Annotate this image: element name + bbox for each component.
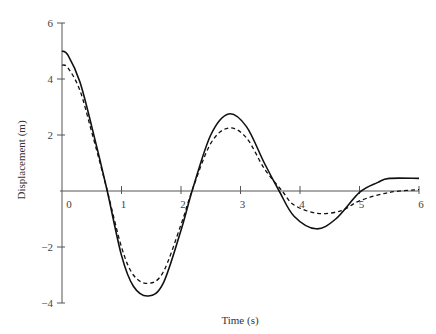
ticks: 642−2−40123456 [41, 17, 424, 309]
dashed-series-line [62, 65, 419, 283]
x-axis-title: Time (s) [221, 314, 259, 327]
solid-series-line [62, 51, 419, 296]
x-tick-label: 3 [240, 198, 246, 210]
axes [60, 23, 419, 303]
series [62, 51, 419, 296]
y-tick-label: 4 [48, 73, 54, 85]
x-tick-label: 0 [66, 198, 72, 210]
y-tick-label: 6 [48, 17, 54, 29]
x-tick-label: 1 [121, 198, 127, 210]
y-axis-title: Displacement (m) [15, 120, 28, 199]
y-tick-label: −2 [41, 241, 53, 253]
x-tick-label: 2 [180, 198, 186, 210]
displacement-chart: 642−2−40123456 Time (s) Displacement (m) [0, 0, 436, 334]
x-tick-label: 6 [418, 198, 424, 210]
y-tick-label: 2 [48, 129, 54, 141]
y-tick-label: −4 [41, 297, 53, 309]
